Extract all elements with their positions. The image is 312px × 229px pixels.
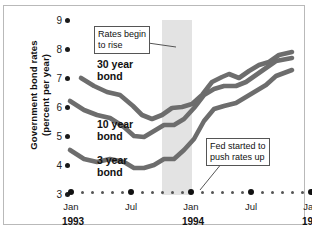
y-tick-6: 6 <box>36 103 62 113</box>
x-tick-label-0: Jan <box>63 201 78 212</box>
y-tick-4: 4 <box>36 161 62 171</box>
plot-area: Government bond rates (percent per year)… <box>64 20 312 195</box>
x-axis-dot <box>241 191 244 194</box>
x-axis-major-dot <box>68 189 74 195</box>
x-axis-dot <box>261 191 264 194</box>
x-axis-dot <box>271 191 274 194</box>
x-axis-dot <box>161 191 164 194</box>
x-axis-major-dot <box>308 189 312 195</box>
y-axis-label: Government bond rates (percent per year) <box>28 10 56 180</box>
x-tick-label-4: Jan <box>303 201 312 212</box>
x-axis-dot <box>101 191 104 194</box>
callout-line1: Rates begin <box>98 29 146 39</box>
x-axis-major-dot <box>248 189 254 195</box>
y-tick-5: 5 <box>36 132 62 142</box>
x-tick-label-2: Jan <box>183 201 198 212</box>
y-tick-8: 8 <box>36 45 62 55</box>
x-axis-dot <box>81 191 84 194</box>
chart-figure: Government bond rates (percent per year)… <box>0 0 312 229</box>
x-axis-major-dot <box>128 189 134 195</box>
x-axis-dot <box>301 191 304 194</box>
x-axis-dot <box>121 191 124 194</box>
x-axis-dot <box>201 191 204 194</box>
x-axis-dot <box>171 191 174 194</box>
callout-rates-begin-to-rise: Rates begin to rise <box>94 26 150 54</box>
x-year-label-1994: 1994 <box>182 216 204 227</box>
x-axis-dot <box>151 191 154 194</box>
y-tick-9: 9 <box>36 16 62 26</box>
callout-line1: Fed started to <box>210 141 266 151</box>
x-year-label-1995: 1995 <box>302 216 312 227</box>
leader-line-rates-begin <box>148 43 176 47</box>
x-axis-dot <box>111 191 114 194</box>
x-axis-dot <box>91 191 94 194</box>
x-axis-dot <box>281 191 284 194</box>
chart-frame: Government bond rates (percent per year)… <box>3 5 305 225</box>
callout-line2: to rise <box>98 40 123 50</box>
x-axis-dot <box>231 191 234 194</box>
y-tick-3: 3 <box>36 190 62 200</box>
callout-line2: push rates up <box>210 152 265 162</box>
leader-line-fed-started <box>200 163 222 190</box>
x-year-label-1993: 1993 <box>62 216 84 227</box>
x-axis-major-dot <box>188 189 194 195</box>
x-tick-label-3: Jul <box>245 201 257 212</box>
x-axis-dot <box>211 191 214 194</box>
y-axis-label-line2: (percent per year) <box>40 10 52 180</box>
x-axis-dot <box>181 191 184 194</box>
y-tick-7: 7 <box>36 74 62 84</box>
x-axis-dot <box>291 191 294 194</box>
x-axis <box>64 189 312 195</box>
x-axis-dot <box>141 191 144 194</box>
y-axis-label-line1: Government bond rates <box>28 10 40 180</box>
x-tick-label-1: Jul <box>125 201 137 212</box>
x-axis-dot <box>221 191 224 194</box>
callout-fed-started-to-push-rates-up: Fed started to push rates up <box>206 138 270 166</box>
